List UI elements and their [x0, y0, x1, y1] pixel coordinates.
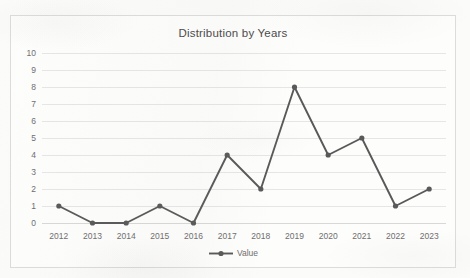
x-axis-tick-label: 2019: [285, 231, 304, 241]
x-axis-tick-label: 2017: [218, 231, 237, 241]
y-axis-tick-label: 2: [31, 184, 36, 194]
chart-container: Distribution by Years 109876543210 20122…: [10, 15, 456, 268]
data-point-marker: [56, 203, 61, 208]
plot-area: 109876543210 201220132014201520162017201…: [42, 53, 446, 223]
chart-title: Distribution by Years: [11, 27, 455, 39]
y-axis-tick-label: 0: [31, 218, 36, 228]
legend-item-label: Value: [237, 248, 258, 258]
y-axis-tick-label: 5: [31, 133, 36, 143]
x-axis-tick-label: 2012: [49, 231, 68, 241]
y-axis-tick-label: 10: [27, 48, 36, 58]
y-axis-tick-label: 1: [31, 201, 36, 211]
x-axis-tick-label: 2022: [386, 231, 405, 241]
series-value-line: [42, 53, 446, 223]
data-point-marker: [90, 220, 95, 225]
data-point-marker: [427, 186, 432, 191]
legend-marker-icon: [208, 249, 234, 258]
y-axis-tick-label: 8: [31, 82, 36, 92]
x-axis-tick-label: 2018: [251, 231, 270, 241]
legend-dot: [218, 250, 223, 255]
data-point-marker: [292, 84, 297, 89]
x-axis-tick-label: 2021: [352, 231, 371, 241]
data-point-marker: [258, 186, 263, 191]
data-point-marker: [359, 135, 364, 140]
y-axis-tick-label: 9: [31, 65, 36, 75]
x-axis-tick-label: 2020: [319, 231, 338, 241]
y-axis-tick-label: 6: [31, 116, 36, 126]
x-axis-tick-label: 2016: [184, 231, 203, 241]
chart-legend: Value: [11, 248, 455, 258]
y-axis-tick-label: 3: [31, 167, 36, 177]
data-point-marker: [393, 203, 398, 208]
series-line: [59, 87, 429, 223]
y-axis-tick-label: 7: [31, 99, 36, 109]
x-axis-tick-label: 2014: [117, 231, 136, 241]
x-axis-tick-label: 2023: [420, 231, 439, 241]
x-axis-tick-label: 2013: [83, 231, 102, 241]
data-point-marker: [191, 220, 196, 225]
data-point-marker: [225, 152, 230, 157]
y-axis-tick-label: 4: [31, 150, 36, 160]
data-point-marker: [157, 203, 162, 208]
data-point-marker: [124, 220, 129, 225]
data-point-marker: [326, 152, 331, 157]
x-axis-tick-label: 2015: [150, 231, 169, 241]
